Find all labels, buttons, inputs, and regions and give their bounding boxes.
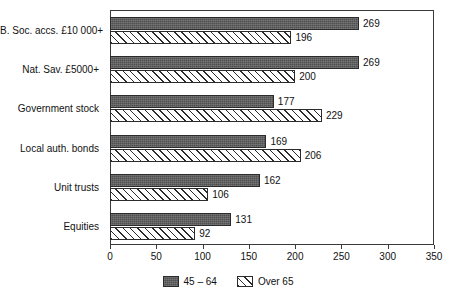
legend-label: 45 – 64: [184, 276, 217, 287]
bar-value-label: 229: [326, 109, 343, 122]
category-label: Equities: [0, 221, 104, 232]
category-label: Unit trusts: [0, 182, 104, 193]
x-axis-tick-label: 250: [333, 251, 350, 262]
x-axis-tick-label: 350: [426, 251, 443, 262]
chart-container: B. Soc. accs. £10 000+Nat. Sav. £5000+Go…: [0, 0, 456, 303]
bar: [110, 95, 274, 108]
bar: [110, 149, 301, 162]
bar: [110, 56, 359, 69]
bar: [110, 31, 291, 44]
bar-value-label: 269: [363, 17, 380, 30]
bar-value-label: 131: [235, 213, 252, 226]
category-label: Local auth. bonds: [0, 143, 104, 154]
bar-value-label: 269: [363, 56, 380, 69]
bar: [110, 174, 260, 187]
x-axis-tick-label: 50: [151, 251, 162, 262]
bar-value-label: 92: [199, 227, 210, 240]
chart-legend: 45 – 64 Over 65: [0, 276, 456, 287]
x-axis-tick-label: 0: [107, 251, 113, 262]
category-label: Government stock: [0, 103, 104, 114]
bar: [110, 227, 195, 240]
bar-value-label: 206: [305, 149, 322, 162]
legend-label: Over 65: [258, 276, 294, 287]
x-axis-tick: [110, 245, 111, 249]
x-axis: 050100150200250300350: [110, 245, 434, 267]
bar: [110, 17, 359, 30]
category-label: B. Soc. accs. £10 000+: [0, 25, 104, 36]
bar-value-label: 169: [270, 135, 287, 148]
x-axis-tick: [203, 245, 204, 249]
x-axis-tick-label: 100: [194, 251, 211, 262]
category-label: Nat. Sav. £5000+: [0, 64, 104, 75]
bar-value-label: 162: [264, 174, 281, 187]
legend-item-45-64: 45 – 64: [163, 276, 217, 287]
x-axis-tick: [434, 245, 435, 249]
bar-value-label: 106: [212, 188, 229, 201]
x-axis-tick: [341, 245, 342, 249]
x-axis-tick-label: 300: [379, 251, 396, 262]
plot-area: [110, 10, 434, 245]
bar-value-label: 177: [278, 95, 295, 108]
solid-dark-swatch-icon: [163, 276, 179, 287]
hatched-swatch-icon: [237, 276, 253, 287]
bar: [110, 70, 295, 83]
x-axis-tick-label: 200: [287, 251, 304, 262]
legend-item-over-65: Over 65: [237, 276, 294, 287]
bar: [110, 213, 231, 226]
bar: [110, 188, 208, 201]
x-axis-tick: [388, 245, 389, 249]
bar: [110, 135, 266, 148]
x-axis-tick: [156, 245, 157, 249]
x-axis-tick: [249, 245, 250, 249]
bar-value-label: 196: [295, 31, 312, 44]
x-axis-tick-label: 150: [241, 251, 258, 262]
bar-value-label: 200: [299, 70, 316, 83]
x-axis-tick: [295, 245, 296, 249]
bar: [110, 109, 322, 122]
